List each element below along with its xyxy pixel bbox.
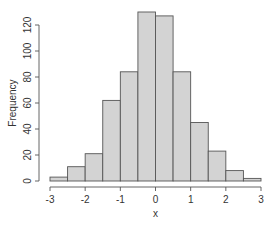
histogram-bar: [120, 72, 138, 181]
x-tick-label: -3: [46, 194, 55, 205]
y-tick-label: 120: [22, 16, 33, 33]
x-tick-label: -2: [81, 194, 90, 205]
histogram-bars: [50, 12, 261, 181]
x-tick-label: 3: [258, 194, 264, 205]
histogram-bar: [138, 12, 156, 181]
y-tick-label: 20: [22, 149, 33, 161]
y-axis: 020406080100120: [22, 16, 39, 184]
histogram-bar: [243, 178, 261, 181]
histogram-bar: [68, 167, 86, 181]
histogram-bar: [156, 16, 174, 181]
x-tick-label: 1: [188, 194, 194, 205]
y-tick-label: 80: [22, 71, 33, 83]
y-tick-label: 60: [22, 97, 33, 109]
x-axis-title: x: [153, 208, 158, 219]
y-axis-title: Frequency: [7, 79, 18, 126]
x-tick-label: 0: [153, 194, 159, 205]
histogram-bar: [103, 100, 121, 181]
histogram-bar: [50, 177, 68, 181]
histogram-bar: [208, 151, 226, 181]
histogram-bar: [226, 171, 244, 181]
histogram-bar: [191, 123, 209, 182]
y-tick-label: 100: [22, 42, 33, 59]
x-axis: -3-2-10123: [46, 187, 265, 205]
y-tick-label: 40: [22, 123, 33, 135]
y-tick-label: 0: [22, 178, 33, 184]
x-tick-label: -1: [116, 194, 125, 205]
histogram-bar: [85, 154, 103, 181]
histogram-chart: 020406080100120 -3-2-10123 Frequency x: [0, 0, 278, 226]
histogram-bar: [173, 72, 191, 181]
x-tick-label: 2: [223, 194, 229, 205]
